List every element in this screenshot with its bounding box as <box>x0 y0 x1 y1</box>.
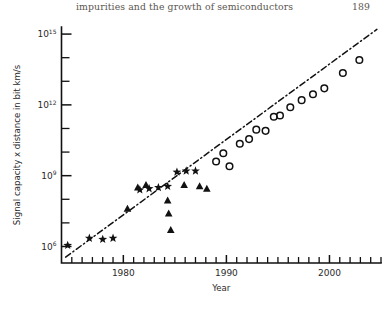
data-point-star <box>98 235 107 243</box>
chart-canvas: 10610910121015198019902000YearSignal cap… <box>0 14 390 313</box>
running-head-page-number: 189 <box>352 1 370 12</box>
data-point-circle <box>310 91 317 98</box>
data-point-star <box>173 168 182 176</box>
data-point-circle <box>237 141 244 148</box>
data-point-triangle <box>180 181 188 188</box>
chart-figure: 10610910121015198019902000YearSignal cap… <box>0 14 390 313</box>
series-triangles <box>124 181 211 233</box>
data-point-circle <box>220 150 227 157</box>
y-axis-title: Signal capacity x distance in bit km/s <box>12 64 22 225</box>
data-point-star <box>163 182 172 190</box>
data-point-circle <box>298 97 305 104</box>
data-point-circle <box>226 163 233 170</box>
data-point-circle <box>213 158 220 165</box>
data-point-star <box>182 166 191 174</box>
data-point-triangle <box>142 181 150 188</box>
y-tick-label: 109 <box>41 169 56 181</box>
x-tick-label: 1990 <box>215 268 238 278</box>
data-point-circle <box>340 70 347 77</box>
data-point-triangle <box>165 209 173 216</box>
data-point-circle <box>253 126 260 133</box>
running-head: impurities and the growth of semiconduct… <box>0 0 390 14</box>
data-point-circle <box>287 104 294 111</box>
y-tick-label: 1015 <box>37 28 56 40</box>
x-tick-label: 1980 <box>112 268 135 278</box>
data-point-triangle <box>167 226 175 233</box>
data-point-star <box>191 166 200 174</box>
data-point-star <box>109 234 118 242</box>
series-circles <box>213 57 363 170</box>
figure-page: impurities and the growth of semiconduct… <box>0 0 390 313</box>
data-point-star <box>63 241 72 249</box>
chart-axes <box>62 27 382 263</box>
y-tick-label: 106 <box>41 240 56 252</box>
data-point-circle <box>321 85 328 92</box>
data-point-circle <box>356 57 363 64</box>
data-point-triangle <box>196 182 204 189</box>
x-tick-label: 2000 <box>318 268 341 278</box>
chart-ticks <box>62 34 382 263</box>
data-point-triangle <box>203 185 211 192</box>
chart-trendline <box>66 29 377 257</box>
data-point-circle <box>262 128 269 135</box>
chart-data-points <box>63 57 362 249</box>
data-point-triangle <box>124 205 132 212</box>
x-axis-title: Year <box>211 283 231 293</box>
data-point-triangle <box>164 196 172 203</box>
trend-line <box>66 29 377 257</box>
series-stars <box>63 166 200 249</box>
data-point-circle <box>246 136 253 143</box>
running-head-title: impurities and the growth of semiconduct… <box>76 1 293 12</box>
y-tick-label: 1012 <box>37 99 56 111</box>
data-point-star <box>85 234 94 242</box>
